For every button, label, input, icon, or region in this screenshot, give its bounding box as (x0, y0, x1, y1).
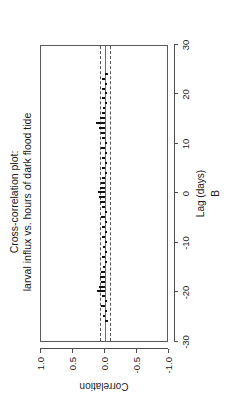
ccf-spike (100, 201, 105, 203)
ccf-spike (105, 142, 107, 144)
zero-reference-line (105, 46, 106, 341)
ccf-spike (105, 102, 107, 104)
ccf-spike (102, 236, 105, 238)
ccf-spike (102, 206, 105, 208)
x-tick-mark (174, 44, 178, 45)
confidence-bound-line (100, 46, 101, 341)
ccf-spike (100, 276, 105, 278)
x-tick-label: -30 (180, 335, 191, 349)
ccf-spike (101, 305, 105, 307)
ccf-spike (105, 300, 107, 302)
x-tick-label: 30 (180, 40, 191, 51)
confidence-bound-line (110, 46, 111, 341)
ccf-spike (102, 78, 105, 80)
ccf-spike (105, 152, 107, 154)
ccf-spike (98, 192, 105, 194)
chart-title-line-1: Cross-correlation plot: (8, 0, 21, 404)
ccf-spike (105, 162, 107, 164)
plot-panel (40, 45, 168, 342)
panel-label: B (210, 45, 221, 342)
ccf-spike (105, 221, 107, 223)
x-axis-line (174, 45, 175, 342)
x-tick-label: 20 (180, 89, 191, 100)
chart-title-line-2: larval influx vs. hours of dark flood ti… (21, 0, 34, 404)
y-tick-label: -1.0 (163, 357, 174, 373)
ccf-spike (103, 315, 105, 317)
ccf-spike (105, 211, 107, 213)
ccf-spike (102, 177, 105, 179)
ccf-spike (105, 172, 107, 174)
x-tick-label: -20 (180, 286, 191, 300)
ccf-spike (105, 251, 107, 253)
ccf-spike (97, 291, 105, 293)
x-tick-label: -10 (180, 236, 191, 250)
ccf-spike (101, 216, 105, 218)
y-tick-label: 1.0 (35, 357, 46, 370)
x-tick-mark (174, 94, 178, 95)
x-tick-mark (174, 341, 178, 342)
ccf-spike (96, 122, 105, 124)
ccf-spike (102, 295, 105, 297)
y-tick-mark (136, 349, 137, 353)
chart-title: Cross-correlation plot: larval influx vs… (8, 0, 34, 404)
ccf-spike (105, 231, 107, 233)
ccf-spike (101, 281, 105, 283)
ccf-spike (102, 137, 105, 139)
x-tick-mark (174, 242, 178, 243)
ccf-spike (99, 286, 105, 288)
ccf-spike (100, 117, 105, 119)
x-axis-label: Lag (days) (195, 45, 206, 342)
y-tick-mark (104, 349, 105, 353)
y-tick-mark (40, 349, 41, 353)
y-tick-mark (72, 349, 73, 353)
y-tick-label: 0.5 (67, 357, 78, 370)
ccf-spike (105, 261, 107, 263)
y-tick-mark (168, 349, 169, 353)
ccf-spike (102, 256, 105, 258)
ccf-spike (102, 112, 105, 114)
ccf-figure: Cross-correlation plot: larval influx vs… (0, 0, 242, 404)
ccf-spike (102, 88, 105, 90)
ccf-spike (105, 73, 108, 75)
y-tick-label: 0.0 (99, 357, 110, 370)
x-tick-mark (174, 292, 178, 293)
ccf-spike (102, 167, 105, 169)
y-axis-label: Correlation (80, 381, 129, 392)
ccf-spike (101, 271, 105, 273)
ccf-spike (103, 246, 105, 248)
ccf-spike (100, 187, 105, 189)
ccf-spike (102, 157, 105, 159)
ccf-spike (105, 83, 107, 85)
ccf-spike (105, 241, 107, 243)
chart-canvas: Cross-correlation plot: larval influx vs… (0, 0, 242, 404)
ccf-spike (103, 107, 105, 109)
ccf-spike (105, 310, 107, 312)
x-tick-label: 10 (180, 139, 191, 150)
ccf-spike (99, 127, 105, 129)
x-tick-label: 0 (180, 191, 191, 196)
ccf-spike (105, 320, 108, 322)
ccf-spike (99, 196, 105, 198)
ccf-spike (102, 97, 105, 99)
y-tick-label: -0.5 (131, 357, 142, 373)
x-tick-mark (174, 143, 178, 144)
ccf-spike (105, 93, 107, 95)
ccf-spike (102, 226, 105, 228)
ccf-spike (103, 266, 105, 268)
ccf-spike (101, 182, 105, 184)
ccf-spike (101, 132, 105, 134)
x-tick-mark (174, 193, 178, 194)
ccf-spike (101, 147, 105, 149)
